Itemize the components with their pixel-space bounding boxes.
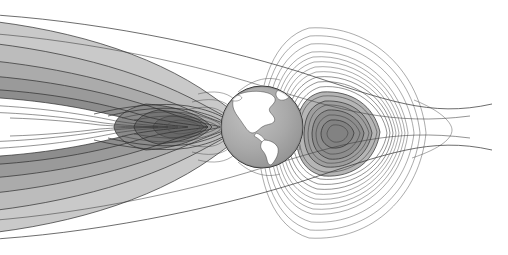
earth-globe (221, 86, 303, 168)
magnetosphere-figure (0, 0, 508, 255)
contour-plot-canvas (0, 0, 508, 255)
